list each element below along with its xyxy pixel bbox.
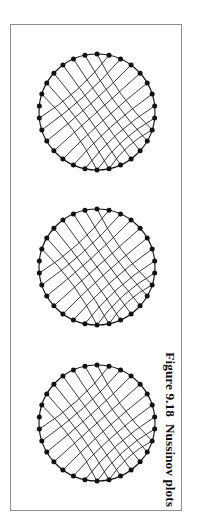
sequence-node xyxy=(44,236,49,241)
sequence-node xyxy=(118,212,123,217)
sequence-node xyxy=(150,403,155,408)
sequence-node xyxy=(129,374,134,379)
sequence-node xyxy=(60,63,65,68)
sequence-node xyxy=(95,207,100,212)
sequence-node xyxy=(150,247,155,252)
sequence-node xyxy=(145,450,150,455)
sequence-node xyxy=(82,477,87,482)
sequence-node xyxy=(37,258,42,263)
sequence-node xyxy=(118,57,123,62)
sequence-node xyxy=(39,403,44,408)
sequence-node xyxy=(44,81,49,86)
base-pair-arc xyxy=(73,94,152,165)
sequence-node xyxy=(71,368,76,373)
sequence-node xyxy=(44,450,49,455)
sequence-node xyxy=(118,317,123,322)
sequence-node xyxy=(138,226,143,231)
sequence-node xyxy=(71,317,76,322)
base-pair-arc xyxy=(42,59,121,130)
sequence-node xyxy=(107,321,112,326)
sequence-node xyxy=(145,139,150,144)
figure-caption-text: Nussinov plots xyxy=(162,424,178,507)
sequence-node xyxy=(118,473,123,478)
sequence-node xyxy=(37,271,42,276)
sequence-node xyxy=(138,459,143,464)
base-pair-arc xyxy=(63,376,131,470)
sequence-node xyxy=(82,321,87,326)
sequence-node xyxy=(95,479,100,484)
sequence-node xyxy=(37,116,42,121)
figure-caption-number: Figure 9.18 xyxy=(162,352,178,417)
sequence-node xyxy=(44,392,49,397)
sequence-node xyxy=(71,162,76,167)
sequence-node xyxy=(37,103,42,108)
sequence-node xyxy=(145,392,150,397)
sequence-node xyxy=(118,368,123,373)
sequence-node xyxy=(150,92,155,97)
base-pair-arc xyxy=(63,238,147,314)
nussinov-circle-bottom xyxy=(37,363,157,484)
sequence-node xyxy=(107,364,112,369)
base-pair-arc xyxy=(63,65,131,159)
sequence-node xyxy=(71,57,76,62)
sequence-node xyxy=(150,438,155,443)
sequence-node xyxy=(44,139,49,144)
sequence-node xyxy=(39,92,44,97)
sequence-node xyxy=(51,71,56,76)
sequence-node xyxy=(95,323,100,328)
sequence-node xyxy=(129,467,134,472)
sequence-node xyxy=(60,156,65,161)
base-pair-arc xyxy=(63,394,147,470)
sequence-node xyxy=(60,374,65,379)
sequence-node xyxy=(51,226,56,231)
sequence-node xyxy=(60,311,65,316)
sequence-node xyxy=(39,438,44,443)
sequence-node xyxy=(107,166,112,171)
sequence-node xyxy=(51,303,56,308)
sequence-node xyxy=(95,363,100,368)
sequence-node xyxy=(60,467,65,472)
sequence-node xyxy=(138,148,143,153)
sequence-node xyxy=(39,282,44,287)
base-pair-arc xyxy=(63,220,131,314)
sequence-node xyxy=(82,166,87,171)
sequence-node xyxy=(129,311,134,316)
sequence-node xyxy=(82,208,87,213)
sequence-node xyxy=(138,382,143,387)
sequence-node xyxy=(37,414,42,419)
sequence-node xyxy=(39,127,44,132)
nussinov-circle-middle xyxy=(37,207,157,328)
sequence-node xyxy=(51,382,56,387)
sequence-node xyxy=(129,218,134,223)
base-pair-arc xyxy=(47,376,131,452)
sequence-node xyxy=(138,303,143,308)
sequence-node xyxy=(145,236,150,241)
sequence-node xyxy=(129,156,134,161)
sequence-node xyxy=(145,81,150,86)
sequence-node xyxy=(145,294,150,299)
sequence-node xyxy=(71,473,76,478)
base-pair-arc xyxy=(42,370,121,441)
sequence-node xyxy=(95,52,100,57)
sequence-node xyxy=(138,71,143,76)
base-pair-arc xyxy=(42,214,121,285)
sequence-node xyxy=(37,427,42,432)
figure-caption: Figure 9.18 Nussinov plots xyxy=(157,24,183,511)
sequence-node xyxy=(82,364,87,369)
sequence-node xyxy=(44,294,49,299)
base-pair-arc xyxy=(73,405,152,476)
sequence-node xyxy=(82,53,87,58)
base-pair-arc xyxy=(47,220,131,296)
sequence-node xyxy=(51,148,56,153)
nussinov-circle-top xyxy=(37,52,157,173)
sequence-node xyxy=(150,127,155,132)
sequence-node xyxy=(107,53,112,58)
sequence-node xyxy=(118,162,123,167)
sequence-node xyxy=(107,477,112,482)
base-pair-arc xyxy=(63,83,147,159)
sequence-node xyxy=(129,63,134,68)
page-root: Figure 9.18 Nussinov plots xyxy=(0,0,210,521)
sequence-node xyxy=(71,212,76,217)
sequence-node xyxy=(95,168,100,173)
sequence-node xyxy=(150,282,155,287)
